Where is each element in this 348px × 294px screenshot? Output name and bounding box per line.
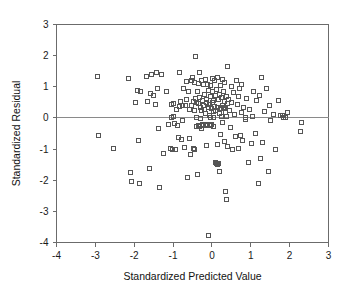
data-point bbox=[198, 71, 202, 75]
data-point bbox=[156, 87, 160, 91]
data-point bbox=[183, 146, 187, 150]
data-point bbox=[181, 119, 185, 123]
y-axis-title: Standardized Residual bbox=[10, 81, 22, 187]
data-point bbox=[145, 75, 149, 79]
data-point bbox=[199, 117, 203, 121]
data-point bbox=[188, 137, 192, 141]
data-point bbox=[165, 90, 169, 94]
data-point bbox=[299, 130, 303, 134]
scatter-plot-canvas: -4-3-2-10123-4-3-2-10123Standardized Pre… bbox=[0, 0, 348, 294]
data-point bbox=[272, 113, 276, 117]
data-point bbox=[230, 85, 234, 89]
data-point bbox=[209, 95, 213, 99]
data-point bbox=[237, 147, 241, 151]
data-point bbox=[240, 111, 244, 115]
x-tick-label-2: -2 bbox=[130, 250, 139, 261]
data-point bbox=[225, 198, 229, 202]
data-point bbox=[112, 147, 116, 151]
x-tick-label-6: 2 bbox=[287, 250, 293, 261]
data-point bbox=[254, 132, 258, 136]
x-tick-label-1: -3 bbox=[91, 250, 100, 261]
data-point bbox=[162, 152, 166, 156]
data-point bbox=[189, 153, 193, 157]
data-point bbox=[185, 80, 189, 84]
data-point bbox=[277, 99, 281, 103]
data-point bbox=[221, 121, 225, 125]
y-tick-label-0: -4 bbox=[40, 237, 49, 248]
data-point bbox=[204, 78, 208, 82]
data-point bbox=[203, 93, 207, 97]
data-point bbox=[187, 90, 191, 94]
data-point bbox=[219, 84, 223, 88]
data-point bbox=[224, 190, 228, 194]
data-point bbox=[190, 104, 194, 108]
data-point bbox=[237, 95, 241, 99]
data-point bbox=[223, 140, 227, 144]
data-point bbox=[226, 65, 230, 69]
data-point bbox=[207, 234, 211, 238]
data-point bbox=[258, 94, 262, 98]
data-point bbox=[182, 87, 186, 91]
y-tick-label-2: -2 bbox=[40, 175, 49, 186]
data-point bbox=[207, 89, 211, 93]
data-point bbox=[129, 171, 133, 175]
data-point bbox=[245, 97, 249, 101]
data-point bbox=[300, 121, 304, 125]
data-point bbox=[242, 106, 246, 110]
data-point bbox=[127, 77, 131, 81]
data-point bbox=[260, 76, 264, 80]
data-point bbox=[268, 104, 272, 108]
data-point bbox=[188, 108, 192, 112]
data-point bbox=[265, 87, 269, 91]
data-point bbox=[228, 109, 232, 113]
data-point bbox=[224, 111, 228, 115]
data-point bbox=[257, 182, 261, 186]
x-tick-label-0: -4 bbox=[52, 250, 61, 261]
data-point bbox=[231, 148, 235, 152]
data-point bbox=[160, 73, 164, 77]
data-point bbox=[274, 148, 278, 152]
data-point bbox=[226, 145, 230, 149]
data-point bbox=[232, 91, 236, 95]
data-point bbox=[263, 110, 267, 114]
data-point bbox=[216, 143, 220, 147]
data-point bbox=[247, 161, 251, 165]
data-point bbox=[214, 94, 218, 98]
data-point bbox=[179, 100, 183, 104]
data-point bbox=[234, 135, 238, 139]
y-tick-label-1: -3 bbox=[40, 206, 49, 217]
data-point bbox=[267, 170, 271, 174]
data-point bbox=[96, 75, 100, 79]
data-point bbox=[205, 144, 209, 148]
data-point bbox=[241, 139, 245, 143]
y-tick-label-6: 2 bbox=[43, 50, 49, 61]
data-point bbox=[185, 98, 189, 102]
data-point bbox=[148, 167, 152, 171]
x-tick-label-4: 0 bbox=[209, 250, 215, 261]
data-point bbox=[154, 103, 158, 107]
data-point bbox=[215, 88, 219, 92]
data-point bbox=[219, 133, 223, 137]
data-point bbox=[146, 100, 150, 104]
data-point bbox=[229, 126, 233, 130]
data-point bbox=[286, 111, 290, 115]
data-point bbox=[194, 55, 198, 59]
x-tick-label-3: -1 bbox=[169, 250, 178, 261]
x-tick-label-5: 1 bbox=[248, 250, 254, 261]
data-point bbox=[158, 186, 162, 190]
data-point bbox=[202, 83, 206, 87]
data-points-group bbox=[96, 55, 304, 238]
data-point bbox=[250, 142, 254, 146]
data-point bbox=[238, 87, 242, 91]
data-point bbox=[248, 108, 252, 112]
data-point bbox=[193, 109, 197, 113]
data-point bbox=[255, 99, 259, 103]
data-point bbox=[240, 83, 244, 87]
data-point bbox=[157, 127, 161, 131]
y-tick-label-5: 1 bbox=[43, 81, 49, 92]
data-point bbox=[233, 113, 237, 117]
x-tick-label-7: 3 bbox=[326, 250, 332, 261]
data-point bbox=[186, 176, 190, 180]
data-point bbox=[138, 182, 142, 186]
data-point bbox=[196, 173, 200, 177]
